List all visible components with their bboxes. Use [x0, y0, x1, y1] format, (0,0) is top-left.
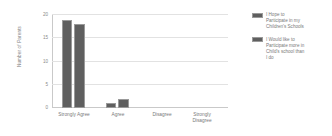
bar-group-strongly-disagree	[184, 15, 228, 108]
legend-label-1: I Would like to Participate more in Chil…	[266, 37, 306, 62]
x-label-disagree: Disagree	[140, 112, 184, 118]
chart-legend: I Hope to Participate in my Children's S…	[252, 12, 330, 67]
legend-label-0: I Hope to Participate in my Children's S…	[266, 12, 306, 31]
x-label-agree: Agree	[96, 112, 140, 118]
bar-group-disagree	[140, 15, 184, 108]
bar-series1-agree	[118, 99, 129, 108]
x-label-strongly-disagree: Strongly Disagree	[187, 112, 217, 124]
plot-area: 20 15 10 5 0	[52, 15, 228, 108]
bar-series0-agree	[106, 103, 117, 108]
bar-group-agree	[96, 15, 140, 108]
legend-swatch-icon-1	[252, 37, 263, 42]
y-tick-label-15: 15	[43, 35, 48, 40]
y-axis-title: Number of Parents	[17, 16, 22, 78]
bar-series1-strongly-agree	[74, 24, 85, 108]
legend-entry-1: I Would like to Participate more in Chil…	[252, 37, 330, 62]
x-label-strongly-agree: Strongly Agree	[52, 112, 96, 118]
bar-group-strongly-agree	[52, 15, 96, 108]
y-tick-label-5: 5	[45, 81, 48, 86]
bar-chart: Number of Parents 20 15 10 5 0	[0, 0, 332, 136]
legend-swatch-icon-0	[252, 13, 263, 18]
y-tick-label-10: 10	[43, 58, 48, 63]
bar-series0-strongly-agree	[62, 20, 73, 108]
legend-entry-0: I Hope to Participate in my Children's S…	[252, 12, 330, 31]
y-tick-label-0: 0	[45, 105, 48, 110]
y-tick-label-20: 20	[43, 12, 48, 17]
